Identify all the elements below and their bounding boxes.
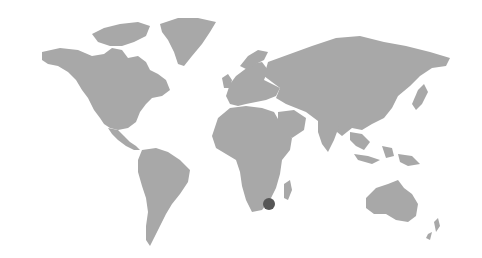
central-america: [108, 128, 140, 150]
south-america: [138, 148, 190, 246]
australia: [366, 180, 418, 222]
world-map: [0, 0, 482, 258]
north-america: [42, 48, 170, 130]
british-isles: [222, 74, 232, 88]
greenland: [160, 18, 216, 66]
madagascar: [284, 180, 292, 200]
arctic-islands: [92, 22, 150, 46]
world-map-svg: [0, 0, 482, 258]
southeast-asia: [350, 132, 420, 166]
india: [318, 116, 340, 152]
japan: [412, 84, 428, 110]
location-marker[interactable]: [263, 198, 275, 210]
new-zealand: [426, 218, 440, 240]
